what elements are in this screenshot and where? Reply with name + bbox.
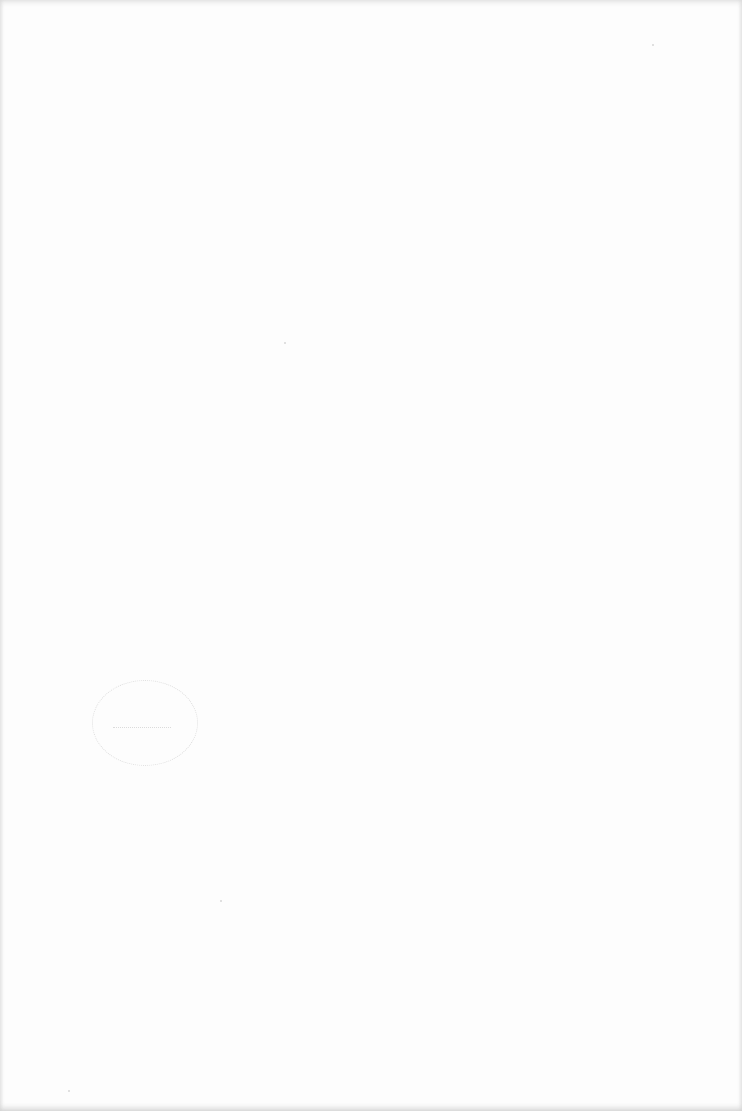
scan-speck bbox=[284, 342, 286, 344]
scan-speck bbox=[68, 1090, 70, 1092]
scan-speck bbox=[652, 44, 654, 46]
stamp-line bbox=[113, 727, 171, 728]
scan-speck bbox=[220, 900, 222, 902]
faded-stamp bbox=[92, 680, 198, 766]
scanned-page bbox=[0, 0, 742, 1111]
